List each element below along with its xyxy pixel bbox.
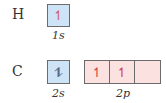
- element-symbol-h: H: [12, 6, 24, 22]
- orbital-box-c-2s: ⥮: [47, 60, 70, 84]
- orbital-box-c-2p-3: [134, 60, 161, 84]
- spin-paired-arrows-icon: ⥮: [54, 66, 63, 79]
- orbital-box-h-1s: ↿: [47, 4, 70, 27]
- subshell-label-1s: 1s: [52, 29, 65, 42]
- spin-up-arrow-icon: ↿: [53, 9, 64, 22]
- element-symbol-c: C: [12, 63, 23, 79]
- subshell-label-2s: 2s: [52, 87, 65, 100]
- spin-up-arrow-icon: ↿: [92, 66, 103, 79]
- orbital-box-c-2p-2: ↿: [109, 60, 135, 84]
- subshell-label-2p: 2p: [116, 87, 130, 100]
- spin-up-arrow-icon: ↿: [117, 66, 128, 79]
- orbital-box-c-2p-1: ↿: [84, 60, 110, 84]
